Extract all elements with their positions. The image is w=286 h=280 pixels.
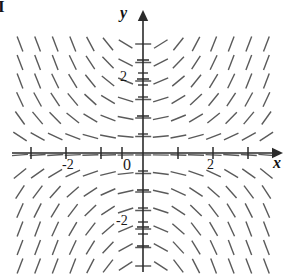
field-segment	[17, 74, 23, 89]
field-segment	[51, 204, 59, 218]
field-segment	[50, 186, 61, 198]
field-segment	[172, 76, 184, 86]
field-segment	[35, 37, 41, 52]
field-segment	[263, 92, 270, 107]
field-segment	[70, 37, 76, 52]
origin-label: 0	[123, 157, 131, 173]
field-segment	[228, 55, 234, 70]
field-segment	[211, 259, 217, 274]
field-segment	[264, 240, 270, 255]
field-segment	[52, 55, 58, 70]
field-segment	[103, 242, 114, 254]
field-segment	[208, 187, 220, 198]
field-segment	[101, 206, 114, 215]
field-segment	[50, 112, 61, 123]
field-segment	[118, 116, 134, 119]
field-segment	[102, 224, 114, 234]
field-segment	[153, 136, 169, 138]
field-segment	[101, 189, 116, 195]
field-segment	[68, 204, 78, 217]
field-segment	[35, 55, 41, 70]
field-segment	[17, 37, 23, 52]
x-tick-label-2: 2	[207, 158, 214, 172]
field-segment	[119, 40, 133, 48]
field-segment	[17, 240, 23, 255]
field-segment	[264, 259, 270, 274]
field-segment	[264, 37, 270, 52]
field-segment	[210, 55, 217, 69]
field-segment	[209, 74, 217, 88]
field-segment	[103, 38, 113, 50]
field-segment	[35, 222, 41, 237]
field-segment	[52, 240, 58, 255]
field-segment	[153, 190, 169, 194]
field-segment	[102, 76, 114, 86]
field-segment	[47, 155, 63, 156]
field-segment	[65, 155, 81, 156]
field-segment	[83, 134, 98, 138]
field-segment	[242, 133, 256, 141]
field-segment	[260, 132, 273, 141]
field-segment	[69, 55, 76, 69]
field-segment	[65, 134, 80, 140]
field-segment	[101, 115, 116, 121]
field-segment	[69, 222, 77, 236]
field-segment	[192, 241, 200, 255]
field-segment	[31, 133, 45, 141]
field-segment	[154, 40, 168, 49]
field-segment	[13, 132, 26, 141]
field-segment	[226, 112, 237, 123]
field-segment	[69, 240, 76, 255]
field-segment	[191, 75, 201, 87]
field-segment	[84, 114, 98, 122]
field-segment	[192, 56, 201, 69]
field-segment	[228, 37, 234, 52]
field-segment	[85, 205, 96, 216]
field-segment	[52, 74, 59, 88]
field-segment	[70, 259, 76, 274]
field-segment	[119, 244, 133, 252]
field-segment	[172, 95, 186, 103]
field-segment	[228, 240, 234, 255]
field-segment	[84, 94, 96, 105]
field-segment	[100, 135, 116, 138]
field-segment	[67, 187, 79, 198]
field-segment	[192, 259, 199, 273]
slope-field-plot	[0, 0, 286, 280]
field-segment	[87, 37, 95, 51]
field-segment	[189, 188, 202, 197]
field-segment	[264, 55, 270, 70]
field-segment	[172, 206, 185, 215]
field-segment	[84, 188, 97, 197]
field-segment	[246, 55, 252, 70]
field-segment	[30, 154, 46, 155]
field-segment	[244, 112, 254, 124]
y-tick-label-2: 2	[120, 70, 127, 84]
field-segment	[153, 78, 168, 84]
field-segment	[211, 37, 217, 52]
field-segment	[86, 241, 94, 255]
field-segment	[68, 93, 78, 105]
x-axis-label: x	[273, 155, 281, 171]
field-segment	[33, 186, 43, 199]
field-segment	[100, 172, 116, 176]
field-segment	[260, 168, 272, 178]
field-segment	[48, 169, 62, 177]
field-segment	[228, 74, 235, 88]
field-segment	[227, 93, 236, 106]
y-tick-label-neg2: -2	[116, 214, 128, 228]
field-segment	[224, 169, 238, 177]
field-segment	[83, 171, 98, 176]
field-segment	[52, 222, 59, 237]
field-segment	[153, 173, 169, 175]
field-segment	[118, 97, 133, 102]
field-segment	[34, 203, 41, 217]
field-segment	[102, 57, 113, 68]
field-segment	[191, 223, 201, 236]
field-segment	[242, 169, 255, 178]
field-segment	[173, 38, 183, 51]
field-segment	[188, 155, 204, 156]
field-segment	[228, 259, 234, 274]
field-segment	[206, 134, 221, 140]
field-segment	[227, 204, 235, 218]
